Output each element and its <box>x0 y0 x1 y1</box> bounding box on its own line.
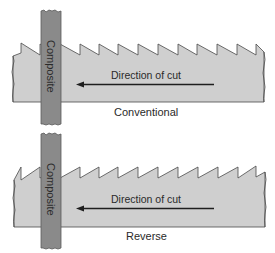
composite-label-reverse: Composite <box>45 163 57 216</box>
caption-reverse: Reverse <box>126 230 167 242</box>
conventional-panel: Composite Direction of cut Conventional <box>12 10 265 125</box>
saw-cut-diagram: Composite Direction of cut Conventional … <box>0 0 275 253</box>
direction-label-reverse: Direction of cut <box>111 193 181 205</box>
reverse-panel: Composite Direction of cut Reverse <box>13 133 266 249</box>
composite-label-conventional: Composite <box>45 40 57 93</box>
caption-conventional: Conventional <box>114 106 178 118</box>
direction-label-conventional: Direction of cut <box>111 69 181 81</box>
